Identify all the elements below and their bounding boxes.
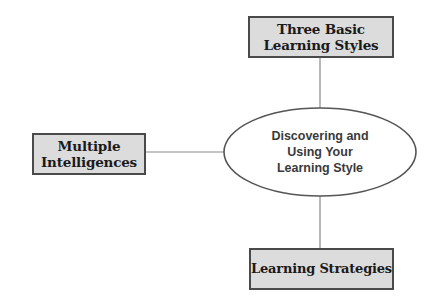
node-multiple-intelligences: Multiple Intelligences xyxy=(32,133,146,175)
node-label: Three Basic Learning Styles xyxy=(264,21,379,53)
center-node-text: Discovering and Using Your Learning Styl… xyxy=(230,120,410,184)
center-label: Discovering and Using Your Learning Styl… xyxy=(271,128,368,176)
node-learning-strategies: Learning Strategies xyxy=(249,248,394,290)
node-label: Multiple Intelligences xyxy=(41,138,137,170)
concept-map: Three Basic Learning Styles Multiple Int… xyxy=(0,0,443,304)
node-three-basic-learning-styles: Three Basic Learning Styles xyxy=(248,16,394,58)
node-label: Learning Strategies xyxy=(251,261,392,277)
